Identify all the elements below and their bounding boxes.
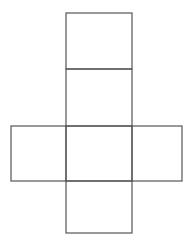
cube-net-diagram: [0, 0, 194, 246]
upper-middle-face: [66, 69, 132, 126]
top-face: [66, 13, 132, 69]
right-face: [132, 126, 182, 181]
bottom-face: [66, 181, 132, 233]
left-face: [11, 126, 66, 181]
center-face: [66, 126, 132, 181]
